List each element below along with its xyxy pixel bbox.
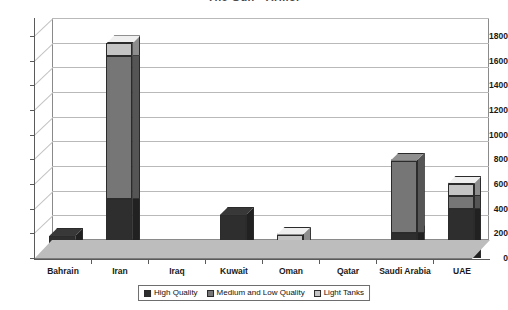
x-axis-tick <box>148 259 149 264</box>
legend-item[interactable]: Medium and Low Quality <box>207 288 305 298</box>
bar-column <box>106 18 132 258</box>
y-axis-tick <box>30 110 35 111</box>
legend-label: High Quality <box>154 288 198 298</box>
bar-segment <box>448 184 474 196</box>
x-axis-tick <box>205 259 206 264</box>
bar-segment <box>448 196 474 208</box>
bar-segment <box>391 161 417 234</box>
bar-segment <box>277 235 303 241</box>
chart-legend: High QualityMedium and Low QualityLight … <box>138 285 370 301</box>
y-axis-label: 200 <box>478 229 508 238</box>
bar-column <box>448 18 474 258</box>
x-axis-label: Kuwait <box>220 266 248 276</box>
y-axis-label: 600 <box>478 180 508 189</box>
x-axis-label: Iran <box>112 266 128 276</box>
bar-column <box>220 18 246 258</box>
x-axis-label: UAE <box>453 266 471 276</box>
y-axis-tick <box>30 36 35 37</box>
bar-segment <box>106 56 132 199</box>
x-axis-label: Qatar <box>337 266 359 276</box>
x-axis-label: Iraq <box>169 266 185 276</box>
x-axis-label: Saudi Arabia <box>379 266 431 276</box>
x-axis-label: Bahrain <box>47 266 79 276</box>
legend-swatch-icon <box>207 290 214 297</box>
legend-swatch-icon <box>144 290 151 297</box>
plot-area <box>34 18 492 258</box>
plot-floor <box>34 240 490 259</box>
y-axis-label: 800 <box>478 155 508 164</box>
legend-swatch-icon <box>314 290 321 297</box>
x-axis-tick <box>262 259 263 264</box>
x-axis-tick <box>376 259 377 264</box>
y-axis-tick <box>30 135 35 136</box>
y-axis-label: 1200 <box>478 106 508 115</box>
bar-segment-side <box>132 48 140 199</box>
bar-column <box>334 18 360 258</box>
bar-segment <box>106 43 132 55</box>
x-axis-tick <box>319 259 320 264</box>
legend-item[interactable]: High Quality <box>144 288 198 298</box>
x-axis-label: Oman <box>279 266 303 276</box>
y-axis-label: 1400 <box>478 81 508 90</box>
y-axis-tick <box>30 85 35 86</box>
y-axis-label: 1800 <box>478 32 508 41</box>
bar-column <box>391 18 417 258</box>
y-axis-label: 400 <box>478 205 508 214</box>
y-axis-label: 1000 <box>478 131 508 140</box>
y-axis-line <box>34 18 35 259</box>
legend-label: Medium and Low Quality <box>217 288 305 298</box>
legend-label: Light Tanks <box>324 288 364 298</box>
chart-title: The Gulf - Armor <box>0 0 508 3</box>
x-axis-tick <box>433 259 434 264</box>
legend-item[interactable]: Light Tanks <box>314 288 364 298</box>
y-axis-tick <box>30 61 35 62</box>
y-axis-label: 1600 <box>478 57 508 66</box>
bar-column <box>49 18 75 258</box>
y-axis-tick <box>30 233 35 234</box>
bar-segment-side <box>417 153 425 234</box>
x-axis-tick <box>91 259 92 264</box>
bar-column <box>277 18 303 258</box>
chart-container: The Gulf - Armor 02004006008001000120014… <box>0 0 508 310</box>
y-axis-tick <box>30 159 35 160</box>
y-axis-tick <box>30 184 35 185</box>
y-axis-tick <box>30 209 35 210</box>
